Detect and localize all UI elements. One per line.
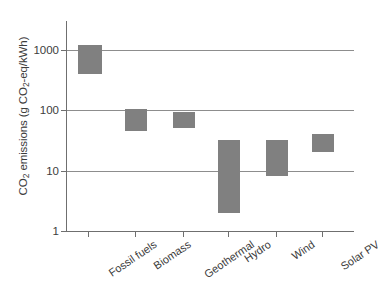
x-tick-geothermal	[183, 232, 184, 237]
y-tick-1000	[61, 50, 67, 51]
x-tick-label-fossil-fuels: Fossil fuels	[106, 238, 158, 279]
y-tick-10	[61, 171, 67, 172]
x-tick-biomass	[135, 232, 136, 237]
range-bar-solar-pv	[312, 134, 334, 152]
x-tick-hydro	[228, 232, 229, 237]
y-tick-label-1000: 1000	[19, 44, 59, 56]
range-bar-fossil-fuels	[78, 45, 102, 74]
y-tick-1	[61, 231, 67, 232]
range-bar-geothermal	[173, 112, 195, 129]
x-tick-label-solar-pv: Solar PV	[338, 238, 381, 272]
range-bar-biomass	[125, 109, 147, 131]
range-bar-wind	[266, 140, 288, 176]
x-axis-spine	[66, 231, 354, 232]
y-axis-title: CO2 emissions (g CO2-eq/kWh)	[14, 0, 32, 236]
gridline-10	[66, 171, 354, 172]
x-tick-label-wind: Wind	[289, 238, 316, 262]
y-tick-label-10: 10	[19, 165, 59, 177]
y-tick-label-100: 100	[19, 104, 59, 116]
x-tick-solar-pv	[322, 232, 323, 237]
range-bar-hydro	[218, 140, 240, 213]
y-axis-spine	[66, 21, 67, 231]
x-tick-fossil-fuels	[88, 232, 89, 237]
plot-area	[66, 21, 354, 231]
x-tick-label-biomass: Biomass	[151, 238, 193, 272]
gridline-100	[66, 110, 354, 111]
y-tick-label-1: 1	[19, 225, 59, 237]
gridline-1000	[66, 50, 354, 51]
y-tick-100	[61, 110, 67, 111]
x-tick-wind	[276, 232, 277, 237]
